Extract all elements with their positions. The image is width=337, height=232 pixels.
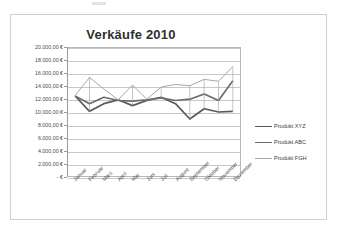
- y-axis-tick-label: 4.000,00 €: [11, 148, 63, 154]
- legend-label: Produkt ABC: [274, 139, 306, 146]
- chart-legend[interactable]: Produkt XYZProdukt ABCProdukt FGH: [255, 118, 337, 166]
- legend-label: Produkt XYZ: [274, 123, 306, 130]
- plot-area[interactable]: [67, 47, 241, 177]
- y-axis-tick-label: 2.000,00 €: [11, 161, 63, 167]
- y-axis-tick-label: 14.000,00 €: [11, 83, 63, 89]
- legend-label: Produkt FGH: [274, 155, 307, 162]
- series-lines: [68, 48, 240, 176]
- y-axis-tick-label: 18.000,00 €: [11, 57, 63, 63]
- series-line: [75, 67, 233, 100]
- page-artifact-mark: [92, 2, 106, 5]
- legend-entry[interactable]: Produkt FGH: [255, 150, 337, 166]
- legend-entry[interactable]: Produkt XYZ: [255, 118, 337, 134]
- y-axis-tick-label: 16.000,00 €: [11, 70, 63, 76]
- y-axis-tick-label: - €: [11, 174, 63, 180]
- y-axis-tick-label: 12.000,00 €: [11, 96, 63, 102]
- y-axis-labels: 20.000,00 €18.000,00 €16.000,00 €14.000,…: [11, 47, 65, 177]
- series-line: [75, 81, 233, 104]
- y-axis-tick-label: 20.000,00 €: [11, 44, 63, 50]
- chart-title: Verkäufe 2010: [11, 27, 251, 42]
- legend-color-swatch: [255, 142, 272, 143]
- screenshot-root: Verkäufe 2010 20.000,00 €18.000,00 €16.0…: [0, 0, 337, 232]
- y-axis-tick-label: 6.000,00 €: [11, 135, 63, 141]
- legend-color-swatch: [255, 158, 272, 159]
- legend-entry[interactable]: Produkt ABC: [255, 134, 337, 150]
- legend-color-swatch: [255, 126, 272, 127]
- y-axis-tick-label: 8.000,00 €: [11, 122, 63, 128]
- x-axis-labels: JanuarFebruarMärzAprilMaiJuniJuliAugustS…: [67, 178, 247, 224]
- y-axis-tick-label: 10.000,00 €: [11, 109, 63, 115]
- chart-container[interactable]: Verkäufe 2010 20.000,00 €18.000,00 €16.0…: [10, 14, 327, 220]
